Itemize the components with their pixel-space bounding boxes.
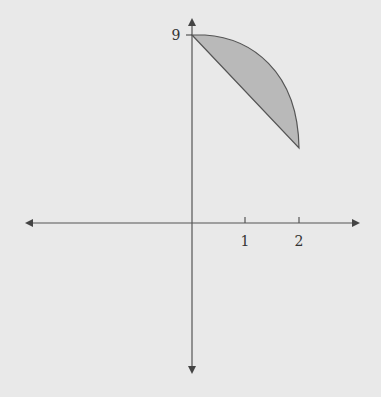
- diagram-canvas: 1 2 9: [0, 0, 381, 397]
- shaded-region: [192, 35, 299, 148]
- x-tick-label-2: 2: [295, 233, 304, 249]
- x-tick-label-1: 1: [241, 233, 250, 249]
- y-tick-label-9: 9: [172, 27, 181, 43]
